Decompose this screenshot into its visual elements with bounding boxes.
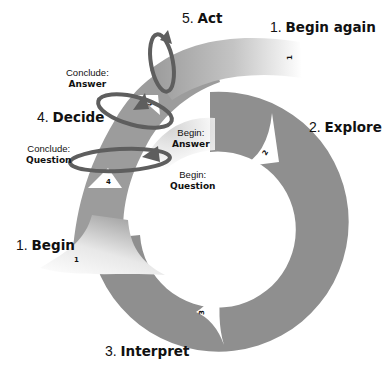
stage-label-decide: 4. Decide	[37, 110, 104, 125]
marker-1-begin: 1	[74, 256, 79, 264]
stage-label-explore: 2. Explore	[309, 120, 382, 135]
label-conclude-question: Conclude: Question	[26, 144, 72, 165]
stage-label-begin-again: 1. Begin again	[270, 20, 376, 35]
label-begin-question: Begin: Question	[170, 170, 216, 191]
stage-label-act: 5. Act	[182, 11, 222, 26]
stage-label-begin: 1. Begin	[16, 238, 75, 253]
marker-4: 4	[106, 178, 111, 186]
stage-label-interpret: 3. Interpret	[105, 344, 189, 359]
marker-1-again: 1	[286, 55, 294, 60]
marker-3: 3	[198, 310, 206, 315]
label-conclude-answer: Conclude: Answer	[66, 68, 109, 89]
label-begin-answer: Begin: Answer	[172, 128, 210, 149]
